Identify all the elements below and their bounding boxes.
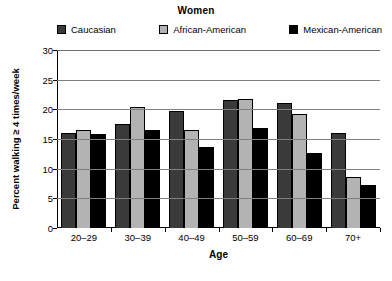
bar [184, 130, 199, 228]
y-tick-mark-5 [53, 198, 57, 199]
bar [61, 133, 76, 228]
legend-label-mexican-american: Mexican-American [303, 24, 382, 35]
plot-area: 051015202530 [57, 50, 380, 228]
gridline-10 [57, 169, 380, 170]
bar [76, 130, 91, 228]
bar [145, 130, 160, 228]
legend-label-caucasian: Caucasian [71, 24, 116, 35]
chart-title: Women [0, 5, 392, 16]
bar [292, 114, 307, 228]
y-tick-mark-15 [53, 139, 57, 140]
y-tick-mark-10 [53, 169, 57, 170]
x-tick-label: 50–59 [218, 232, 272, 243]
bar [130, 107, 145, 228]
bar [307, 153, 322, 228]
x-tick-label: 70+ [326, 232, 380, 243]
y-tick-label-25: 25 [42, 74, 53, 85]
gridline-20 [57, 109, 380, 110]
y-tick-label-30: 30 [42, 45, 53, 56]
legend-item-african-american: African-American [159, 24, 246, 35]
x-tick-mark [380, 228, 381, 232]
legend-item-mexican-american: Mexican-American [289, 24, 382, 35]
x-tick-label: 40–49 [165, 232, 219, 243]
bar [331, 133, 346, 228]
y-tick-mark-20 [53, 109, 57, 110]
legend-item-caucasian: Caucasian [57, 24, 116, 35]
x-tick-label: 60–69 [272, 232, 326, 243]
bar [223, 100, 238, 228]
bar [199, 147, 214, 228]
gridline-25 [57, 80, 380, 81]
x-tick-label: 20–29 [57, 232, 111, 243]
y-tick-mark-25 [53, 80, 57, 81]
gridline-5 [57, 198, 380, 199]
legend-label-african-american: African-American [173, 24, 246, 35]
y-axis-title: Percent walking ≥ 4 times/week [8, 50, 22, 228]
bar [361, 185, 376, 228]
gridline-30 [57, 50, 380, 51]
x-axis-title: Age [57, 249, 380, 260]
bar-chart: Women Caucasian African-American Mexican… [0, 0, 392, 281]
bar [253, 128, 268, 228]
bar [346, 177, 361, 228]
x-axis-tick-labels: 20–2930–3940–4950–5960–6970+ [57, 232, 380, 243]
bar [277, 103, 292, 228]
legend-swatch-mexican-american [289, 25, 298, 34]
legend-swatch-african-american [159, 25, 168, 34]
x-tick-label: 30–39 [111, 232, 165, 243]
y-tick-label-10: 10 [42, 163, 53, 174]
gridline-15 [57, 139, 380, 140]
y-tick-mark-30 [53, 50, 57, 51]
y-tick-label-15: 15 [42, 134, 53, 145]
chart-legend: Caucasian African-American Mexican-Ameri… [57, 22, 386, 36]
y-axis-title-label: Percent walking ≥ 4 times/week [10, 68, 21, 209]
y-tick-label-20: 20 [42, 104, 53, 115]
bar [238, 99, 253, 228]
y-tick-mark-0 [53, 228, 57, 229]
bar [91, 134, 106, 228]
legend-swatch-caucasian [57, 25, 66, 34]
